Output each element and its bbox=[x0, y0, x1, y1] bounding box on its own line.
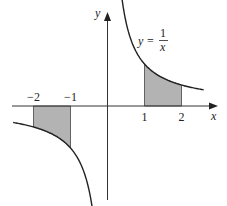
x-tick-label: 2 bbox=[179, 110, 185, 124]
equation-numerator: 1 bbox=[160, 26, 166, 40]
x-tick-label: −2 bbox=[27, 90, 40, 104]
y-axis-label: y bbox=[94, 6, 101, 20]
equation-label: y = 1 x bbox=[137, 26, 168, 54]
x-axis-label: x bbox=[210, 109, 217, 123]
x-tick-label: −1 bbox=[64, 90, 77, 104]
x-tick-label: 1 bbox=[142, 110, 148, 124]
equation-denominator: x bbox=[159, 40, 166, 54]
y-axis-arrow bbox=[104, 12, 111, 21]
equation-lhs: y = bbox=[137, 34, 154, 48]
curve-negative-branch bbox=[13, 122, 94, 206]
plot: −2−112 x y y = 1 x bbox=[0, 0, 227, 206]
